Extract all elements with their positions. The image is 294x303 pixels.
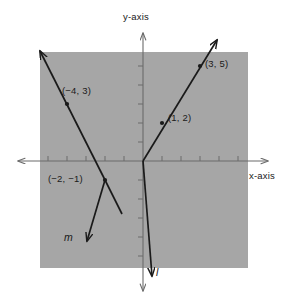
coordinate-plane-figure: y-axis x-axis (3, 5) (1, 2) (−4, 3) (−2,… [0,0,294,303]
y-axis-label: y-axis [123,11,149,22]
point-label-neg2-neg1: (−2, −1) [48,173,83,184]
line-label-m: m [64,231,73,243]
point-label-neg4-3: (−4, 3) [62,85,91,96]
point-label-3-5: (3, 5) [205,58,228,69]
line-label-l: l [156,266,159,278]
line-m-lower-branch [87,180,105,241]
x-axis-label: x-axis [249,170,275,181]
line-m-branch-svg [0,0,294,303]
point-label-1-2: (1, 2) [168,112,191,123]
